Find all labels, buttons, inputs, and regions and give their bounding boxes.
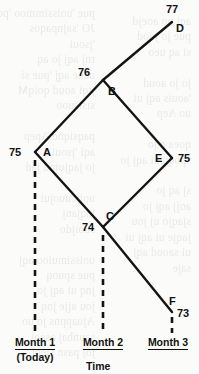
node-c-value: 74 xyxy=(82,222,94,233)
node-d-label: D xyxy=(176,23,184,34)
node-d-value: 77 xyxy=(166,4,178,15)
node-b-value: 76 xyxy=(78,67,90,78)
axis-tick-month-3-label: Month 3 xyxy=(148,336,188,350)
edge-c-f xyxy=(103,227,172,312)
axis-tick-month-2-label: Month 2 xyxy=(83,336,123,350)
axis-tick-month-1-label: Month 1 xyxy=(15,336,55,350)
lattice-diagram xyxy=(0,0,199,374)
node-e-label: E xyxy=(155,153,162,164)
gridline-group xyxy=(35,160,172,333)
node-a-label: A xyxy=(43,147,51,158)
node-b-label: B xyxy=(108,86,116,97)
axis-tick-month-2: Month 2 xyxy=(68,336,138,350)
node-f-value: 73 xyxy=(177,308,189,319)
figure-canvas: pue 'uoissimmoo 'pooj 'ui JO 'sajnpaqos … xyxy=(0,0,199,374)
axis-title-time: Time xyxy=(86,360,110,372)
edge-a-c xyxy=(35,152,103,227)
node-e-value: 75 xyxy=(178,153,190,164)
edge-a-b xyxy=(35,80,103,152)
axis-tick-month-1-sublabel: (Today) xyxy=(0,351,70,363)
axis-tick-month-3: Month 3 xyxy=(137,336,199,350)
node-a-value: 75 xyxy=(9,147,21,158)
axis-tick-month-1: Month 1 (Today) xyxy=(0,336,70,363)
node-c-label: C xyxy=(106,211,114,222)
edge-b-d xyxy=(103,22,172,80)
node-f-label: F xyxy=(169,296,176,307)
